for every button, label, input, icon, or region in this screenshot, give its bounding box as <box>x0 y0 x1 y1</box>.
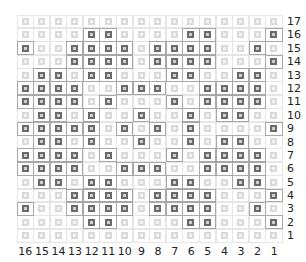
light-stitch-icon <box>187 152 194 159</box>
light-stitch-icon <box>221 179 228 186</box>
grid-cell <box>249 28 266 42</box>
grid-cell <box>50 202 67 216</box>
light-stitch-icon <box>171 165 178 172</box>
grid-cell <box>66 15 83 29</box>
grid-cell <box>249 135 266 149</box>
column-label: 12 <box>83 245 100 259</box>
grid-cell <box>216 108 233 122</box>
row-label: 16 <box>287 28 301 41</box>
row-label: 12 <box>287 82 301 95</box>
grid-cell <box>149 122 166 136</box>
light-stitch-icon <box>22 18 29 25</box>
grid-cell <box>99 108 116 122</box>
grid-cell <box>232 229 249 243</box>
light-stitch-icon <box>237 45 244 52</box>
grid-cell <box>50 28 67 42</box>
dark-stitch-icon <box>237 165 244 172</box>
grid-cell <box>99 68 116 82</box>
grid-cell <box>133 122 150 136</box>
light-stitch-icon <box>254 18 261 25</box>
dark-stitch-icon <box>71 205 78 212</box>
light-stitch-icon <box>204 125 211 132</box>
grid-cell <box>232 162 249 176</box>
grid-cell <box>66 28 83 42</box>
light-stitch-icon <box>154 31 161 38</box>
light-stitch-icon <box>138 98 145 105</box>
grid-cell <box>166 162 183 176</box>
grid-cell <box>265 108 282 122</box>
dark-stitch-icon <box>88 138 95 145</box>
light-stitch-icon <box>187 18 194 25</box>
grid-cell <box>83 41 100 55</box>
dark-stitch-icon <box>154 165 161 172</box>
grid-cell <box>216 202 233 216</box>
dark-stitch-icon <box>38 165 45 172</box>
grid-cell <box>50 41 67 55</box>
dark-stitch-icon <box>105 152 112 159</box>
light-stitch-icon <box>138 192 145 199</box>
grid-cell <box>66 68 83 82</box>
grid-cell <box>66 122 83 136</box>
light-stitch-icon <box>154 98 161 105</box>
dark-stitch-icon <box>22 85 29 92</box>
light-stitch-icon <box>204 18 211 25</box>
dark-stitch-icon <box>254 165 261 172</box>
dark-stitch-icon <box>187 112 194 119</box>
grid-cell <box>166 95 183 109</box>
dark-stitch-icon <box>154 125 161 132</box>
light-stitch-icon <box>55 219 62 226</box>
light-stitch-icon <box>22 192 29 199</box>
dark-stitch-icon <box>270 58 277 65</box>
grid-cell <box>149 15 166 29</box>
dark-stitch-icon <box>88 179 95 186</box>
dark-stitch-icon <box>121 125 128 132</box>
dark-stitch-icon <box>138 165 145 172</box>
grid-cell <box>166 175 183 189</box>
grid-cell <box>265 162 282 176</box>
grid-cell <box>50 68 67 82</box>
light-stitch-icon <box>121 152 128 159</box>
grid-cell <box>182 229 199 243</box>
grid-cell <box>216 135 233 149</box>
dark-stitch-icon <box>237 85 244 92</box>
dark-stitch-icon <box>254 98 261 105</box>
grid-cell <box>133 148 150 162</box>
grid-cell <box>133 41 150 55</box>
dark-stitch-icon <box>204 205 211 212</box>
grid-cell <box>182 81 199 95</box>
light-stitch-icon <box>204 232 211 239</box>
dark-stitch-icon <box>38 125 45 132</box>
grid-cell <box>199 55 216 69</box>
light-stitch-icon <box>105 85 112 92</box>
grid-cell <box>33 148 50 162</box>
grid-cell <box>182 148 199 162</box>
light-stitch-icon <box>121 232 128 239</box>
light-stitch-icon <box>171 232 178 239</box>
grid-cell <box>17 95 34 109</box>
grid-cell <box>33 202 50 216</box>
dark-stitch-icon <box>138 85 145 92</box>
light-stitch-icon <box>237 125 244 132</box>
light-stitch-icon <box>270 232 277 239</box>
dark-stitch-icon <box>270 31 277 38</box>
dark-stitch-icon <box>221 138 228 145</box>
grid-cell <box>17 28 34 42</box>
column-label: 9 <box>133 245 150 259</box>
grid-cell <box>149 28 166 42</box>
column-label: 7 <box>166 245 183 259</box>
grid-cell <box>83 55 100 69</box>
dark-stitch-icon <box>71 98 78 105</box>
dark-stitch-icon <box>254 152 261 159</box>
dark-stitch-icon <box>138 112 145 119</box>
dark-stitch-icon <box>204 219 211 226</box>
row-label: 5 <box>287 176 301 189</box>
dark-stitch-icon <box>121 165 128 172</box>
grid-cell <box>216 55 233 69</box>
grid-cell <box>199 95 216 109</box>
stitch-chart <box>17 15 283 243</box>
grid-cell <box>249 215 266 229</box>
dark-stitch-icon <box>154 58 161 65</box>
light-stitch-icon <box>71 232 78 239</box>
light-stitch-icon <box>254 219 261 226</box>
grid-cell <box>166 202 183 216</box>
